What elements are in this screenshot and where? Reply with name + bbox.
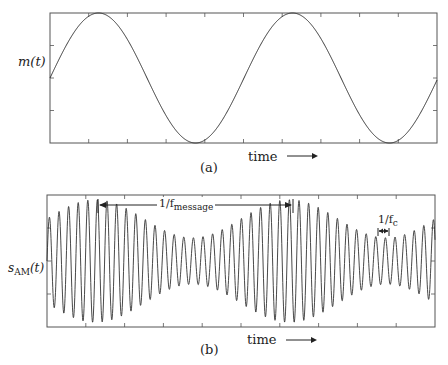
ylabel-sub: AM: [14, 267, 30, 277]
carrier-sub: c: [393, 218, 398, 228]
panel-b-time-label: time: [247, 332, 276, 347]
message-prefix: 1/f: [159, 197, 174, 210]
panel-a-ylabel: m(t): [18, 54, 46, 69]
panel-b-caption: (b): [200, 342, 218, 357]
time-arrow-icon: [312, 153, 318, 159]
panel-a-caption: (a): [200, 160, 218, 175]
message-sub: message: [174, 202, 214, 212]
panel-a-plot: [50, 13, 437, 159]
carrier-prefix: 1/f: [378, 213, 393, 226]
message-period-label: 1/fmessage: [157, 197, 215, 212]
time-arrow-icon: [311, 337, 317, 343]
message-signal-curve: [50, 13, 437, 143]
panel-b-ylabel: sAM(t): [8, 261, 44, 277]
ylabel-arg: (t): [30, 261, 44, 275]
carrier-period-label: 1/fc: [376, 213, 400, 228]
figure-canvas: [0, 0, 448, 365]
panel-a-time-label: time: [248, 149, 277, 164]
arrow-left-icon: [99, 202, 106, 208]
